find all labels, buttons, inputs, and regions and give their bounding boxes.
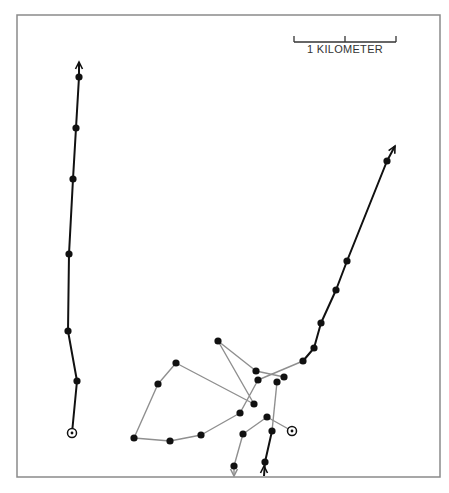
gray-track-loop-line	[134, 341, 303, 441]
location-dot	[154, 380, 161, 387]
location-dot	[65, 250, 72, 257]
left-track-line	[68, 62, 79, 433]
figure-frame	[17, 15, 440, 477]
location-dot	[166, 437, 173, 444]
location-dot	[273, 378, 280, 385]
location-dot	[72, 124, 79, 131]
location-dot	[172, 359, 179, 366]
location-dot	[250, 400, 257, 407]
location-dot	[299, 357, 306, 364]
location-dot	[197, 431, 204, 438]
location-dot	[239, 430, 246, 437]
scale-bar: 1 KILOMETER	[294, 36, 396, 55]
location-dot	[214, 337, 221, 344]
gray-track-loop	[134, 341, 303, 441]
location-dot	[280, 373, 287, 380]
location-dot	[261, 458, 268, 465]
movement-track-diagram: 1 KILOMETER	[0, 0, 449, 493]
location-dot	[310, 344, 317, 351]
gray-track-connector-line	[272, 382, 277, 431]
location-dot	[254, 376, 261, 383]
right-track	[303, 146, 395, 361]
bottom-black-track	[261, 431, 273, 476]
location-dot	[252, 367, 259, 374]
left-track	[68, 62, 83, 433]
location-dot	[332, 286, 339, 293]
animal-tracks	[68, 62, 395, 476]
location-dot	[69, 175, 76, 182]
start-marker-icon	[288, 427, 297, 436]
scale-bar-label: 1 KILOMETER	[307, 43, 383, 55]
location-dot	[130, 434, 137, 441]
location-fixes	[64, 73, 390, 469]
location-dot	[75, 73, 82, 80]
location-dot	[317, 319, 324, 326]
start-marker-icon	[68, 429, 77, 438]
location-dot	[263, 413, 270, 420]
location-dot	[230, 462, 237, 469]
location-dot	[64, 327, 71, 334]
start-markers	[68, 427, 297, 438]
location-dot	[73, 377, 80, 384]
right-track-line	[303, 146, 395, 361]
location-dot	[268, 427, 275, 434]
gray-track-south	[231, 417, 293, 476]
gray-track-connector	[272, 382, 277, 431]
location-dot	[236, 409, 243, 416]
location-dot	[383, 157, 390, 164]
location-dot	[343, 257, 350, 264]
